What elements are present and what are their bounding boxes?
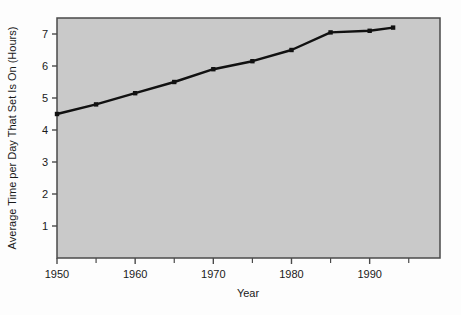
data-point-marker xyxy=(133,91,137,95)
line-chart: 1234567 19501960197019801990 Year Averag… xyxy=(0,0,461,315)
y-tick-label: 6 xyxy=(42,60,48,72)
data-point-marker xyxy=(367,29,371,33)
data-point-marker xyxy=(391,25,395,29)
y-tick-label: 7 xyxy=(42,28,48,40)
data-point-marker xyxy=(211,67,215,71)
data-point-marker xyxy=(55,112,59,116)
y-axis-title: Average Time per Day That Set Is On (Hou… xyxy=(6,27,18,250)
y-tick-label: 1 xyxy=(42,220,48,232)
data-point-marker xyxy=(289,48,293,52)
y-tick-label: 4 xyxy=(42,124,48,136)
chart-figure: 1234567 19501960197019801990 Year Averag… xyxy=(0,0,461,315)
y-tick-label: 3 xyxy=(42,156,48,168)
data-point-marker xyxy=(172,80,176,84)
x-axis-title: Year xyxy=(237,287,260,299)
y-axis-ticks: 1234567 xyxy=(42,28,57,232)
y-tick-label: 5 xyxy=(42,92,48,104)
data-point-marker xyxy=(250,59,254,63)
x-tick-label: 1950 xyxy=(45,268,69,280)
y-tick-label: 2 xyxy=(42,188,48,200)
x-tick-label: 1990 xyxy=(357,268,381,280)
plot-area-background xyxy=(57,18,440,258)
x-axis-ticks: 19501960197019801990 xyxy=(45,258,409,280)
data-point-marker xyxy=(328,30,332,34)
x-tick-label: 1980 xyxy=(279,268,303,280)
x-tick-label: 1970 xyxy=(201,268,225,280)
data-point-marker xyxy=(94,102,98,106)
x-tick-label: 1960 xyxy=(123,268,147,280)
